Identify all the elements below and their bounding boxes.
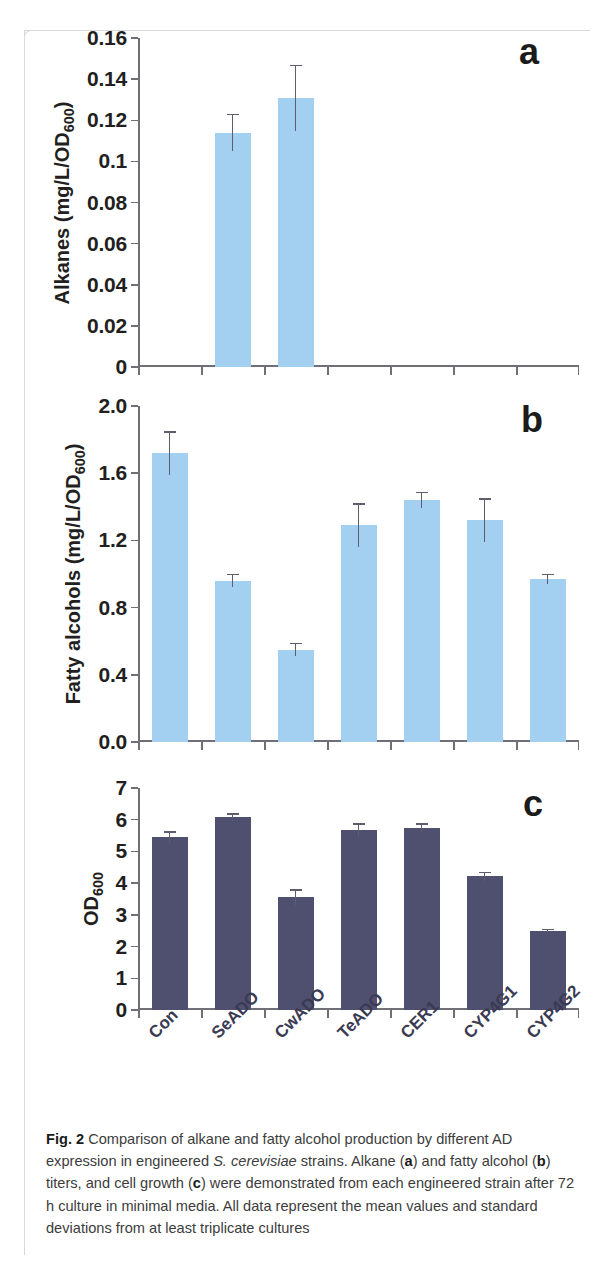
bar-seado xyxy=(215,581,251,742)
y-axis-tick xyxy=(131,405,138,407)
error-bar-cap xyxy=(290,65,302,66)
error-bar-cap xyxy=(164,431,176,432)
y-axis-line xyxy=(138,406,140,742)
caption-text-2: strains. Alkane ( xyxy=(297,1153,405,1169)
y-axis-tick xyxy=(131,819,138,821)
y-axis-tick xyxy=(131,607,138,609)
error-bar-cap xyxy=(164,831,176,832)
x-axis-tick xyxy=(516,367,518,375)
x-axis-tick xyxy=(138,367,140,375)
bar-cyp4g2 xyxy=(530,579,566,742)
panel-a-alkanes: 00.020.040.060.080.10.120.140.16 Alkanes… xyxy=(0,0,604,390)
figure-2: 00.020.040.060.080.10.120.140.16 Alkanes… xyxy=(0,0,604,1281)
y-axis-tick-label: 4 xyxy=(116,871,127,895)
y-axis-line xyxy=(138,38,140,367)
panel-a-letter: a xyxy=(519,34,539,70)
caption-ref-b: b xyxy=(537,1153,546,1169)
y-axis-tick-label: 0.4 xyxy=(98,663,127,687)
error-bar-cap xyxy=(542,574,554,575)
y-axis-tick xyxy=(131,37,138,39)
x-axis-tick xyxy=(201,367,203,375)
x-axis-tick xyxy=(138,742,140,750)
x-axis-tick xyxy=(327,742,329,750)
y-axis-tick-label: 0.12 xyxy=(87,108,127,132)
error-bar-line xyxy=(547,574,548,584)
panel-b-plot-area: 0.00.40.81.21.62.0 xyxy=(138,406,579,742)
y-axis-tick xyxy=(131,946,138,948)
error-bar-cap xyxy=(353,823,365,824)
caption-text-3: ) and fatty alcohol ( xyxy=(413,1153,537,1169)
error-bar-line xyxy=(358,823,359,836)
error-bar-line xyxy=(358,503,359,547)
y-axis-tick xyxy=(131,741,138,743)
error-bar-cap xyxy=(290,889,302,890)
y-axis-tick xyxy=(131,540,138,542)
y-axis-tick-label: 0 xyxy=(116,355,127,379)
y-axis-tick xyxy=(131,851,138,853)
panel-b-fatty-alcohols: 0.00.40.81.21.62.0 Fatty alcohols (mg/L/… xyxy=(0,390,604,758)
y-axis-tick-label: 0.8 xyxy=(98,596,127,620)
figure-label: Fig. 2 xyxy=(46,1131,84,1147)
panel-b-y-axis-label: Fatty alcohols (mg/L/OD600) xyxy=(62,444,88,705)
panel-a-y-axis-label: Alkanes (mg/L/OD600) xyxy=(51,101,77,304)
y-axis-tick xyxy=(131,161,138,163)
y-axis-tick-label: 1.2 xyxy=(98,528,127,552)
y-axis-tick-label: 2.0 xyxy=(98,394,127,418)
error-bar-line xyxy=(169,431,170,475)
y-axis-tick xyxy=(131,674,138,676)
error-bar-cap xyxy=(479,872,491,873)
x-axis-tick xyxy=(578,742,580,750)
y-axis-tick xyxy=(131,325,138,327)
caption-species: S. cerevisiae xyxy=(213,1153,297,1169)
y-axis-tick xyxy=(131,284,138,286)
error-bar-cap xyxy=(416,823,428,824)
y-axis-tick-label: 0.08 xyxy=(87,191,127,215)
x-axis-line xyxy=(138,365,579,367)
x-axis-tick xyxy=(453,742,455,750)
bar-cwado xyxy=(278,98,314,367)
y-axis-tick-label: 0.1 xyxy=(98,149,127,173)
y-axis-tick xyxy=(131,366,138,368)
error-bar-line xyxy=(295,889,296,905)
x-axis-tick xyxy=(578,367,580,375)
error-bar-line xyxy=(295,643,296,656)
bar-teado xyxy=(341,830,377,1010)
y-axis-tick-label: 0.14 xyxy=(87,67,127,91)
error-bar-line xyxy=(169,831,170,842)
x-category-label-con: Con xyxy=(144,1006,182,1044)
x-axis-tick xyxy=(264,367,266,375)
panel-a-plot-area: 00.020.040.060.080.10.120.140.16 xyxy=(138,38,579,367)
bar-seado xyxy=(215,817,251,1010)
error-bar-line xyxy=(232,114,233,151)
x-axis-tick xyxy=(264,742,266,750)
error-bar-cap xyxy=(290,643,302,644)
y-axis-tick-label: 3 xyxy=(116,903,127,927)
x-axis-tick xyxy=(201,742,203,750)
x-axis-tick xyxy=(453,367,455,375)
panel-b-letter: b xyxy=(521,402,543,438)
y-axis-tick-label: 0.0 xyxy=(98,730,127,754)
error-bar-cap xyxy=(227,813,239,814)
y-axis-tick-label: 0.04 xyxy=(87,273,127,297)
error-bar-cap xyxy=(416,492,428,493)
y-axis-tick xyxy=(131,243,138,245)
error-bar-cap xyxy=(353,503,365,504)
y-axis-tick-label: 0.16 xyxy=(87,26,127,50)
error-bar-cap xyxy=(542,929,554,930)
caption-ref-c: c xyxy=(193,1175,201,1191)
y-axis-tick xyxy=(131,882,138,884)
bar-seado xyxy=(215,133,251,367)
y-axis-tick xyxy=(131,472,138,474)
x-axis-tick xyxy=(516,742,518,750)
y-axis-tick xyxy=(131,120,138,122)
bar-cer1 xyxy=(404,828,440,1010)
bar-con xyxy=(152,453,188,742)
error-bar-line xyxy=(484,498,485,542)
y-axis-tick-label: 5 xyxy=(116,839,127,863)
y-axis-tick xyxy=(131,202,138,204)
y-axis-tick xyxy=(131,978,138,980)
figure-caption: Fig. 2 Comparison of alkane and fatty al… xyxy=(46,1128,582,1239)
y-axis-tick xyxy=(131,914,138,916)
error-bar-line xyxy=(232,574,233,587)
bar-teado xyxy=(341,525,377,742)
